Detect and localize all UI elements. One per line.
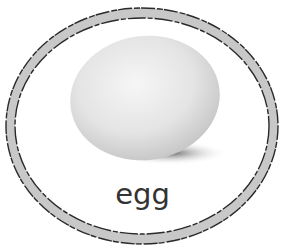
- oval-frame: [0, 0, 285, 252]
- card-label: egg: [0, 177, 285, 211]
- picture-card: egg: [0, 0, 285, 252]
